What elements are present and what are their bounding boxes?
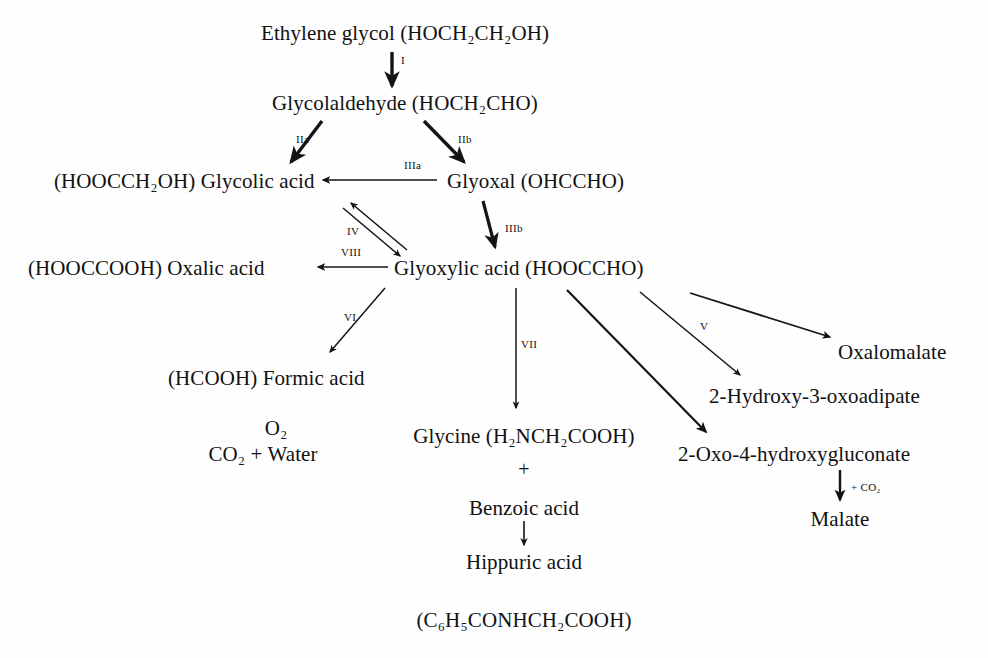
edge-glyoxylic-to-oxalomalate xyxy=(690,293,830,337)
pathway-diagram: Ethylene glycol (HOCH₂CH₂OH)Glycolaldehy… xyxy=(0,0,988,658)
reaction-label-step-co2: + CO₂ xyxy=(851,481,881,493)
node-oxygen: O₂ xyxy=(265,417,288,439)
node-glycine: Glycine (H₂NCH₂COOH) xyxy=(413,425,634,447)
reaction-label-step-V: V xyxy=(700,320,708,332)
edge-glyoxylic-to-formic xyxy=(330,288,385,352)
plus-sign-glycine-benzoic-plus: + xyxy=(518,458,529,481)
edge-glyoxal-to-glyoxylic xyxy=(483,201,495,247)
edge-glyoxylic-to-gluconate xyxy=(567,290,706,432)
reaction-label-step-IIIb: IIIb xyxy=(505,222,523,234)
node-oxalomalate: Oxalomalate xyxy=(838,341,946,363)
node-hippuric-formula: (C₆H₅CONHCH₂COOH) xyxy=(416,609,631,631)
node-benzoic-acid: Benzoic acid xyxy=(469,497,579,519)
reaction-label-step-VIII: VIII xyxy=(341,246,361,258)
edge-glyoxylic-to-glycolic xyxy=(351,203,407,250)
node-glycolic-acid: (HOOCCH₂OH) Glycolic acid xyxy=(54,170,315,192)
node-hippuric-acid: Hippuric acid xyxy=(466,551,582,573)
node-hydroxy-oxoadipate: 2-Hydroxy-3-oxoadipate xyxy=(709,385,920,407)
reaction-label-step-IV: IV xyxy=(347,225,359,237)
node-glyoxylic-acid: Glyoxylic acid (HOOCCHO) xyxy=(394,257,644,279)
reaction-label-step-VII: VII xyxy=(521,338,537,350)
reaction-label-step-IIIa: IIIa xyxy=(404,159,421,171)
node-oxo-hydroxygluconate: 2-Oxo-4-hydroxygluconate xyxy=(678,443,910,465)
node-formic-acid: (HCOOH) Formic acid xyxy=(168,367,365,389)
node-glycolaldehyde: Glycolaldehyde (HOCH₂CHO) xyxy=(272,92,538,114)
node-oxalic-acid: (HOOCCOOH) Oxalic acid xyxy=(28,257,265,279)
reaction-label-step-IIb: IIb xyxy=(458,133,472,145)
reaction-label-step-I: I xyxy=(401,54,405,66)
reaction-label-step-IIa: IIa xyxy=(296,133,309,145)
reaction-label-step-VI: VI xyxy=(344,311,356,323)
node-glyoxal: Glyoxal (OHCCHO) xyxy=(447,170,624,192)
node-ethylene-glycol: Ethylene glycol (HOCH₂CH₂OH) xyxy=(261,22,549,44)
node-malate: Malate xyxy=(811,508,870,530)
node-co2-water: CO₂ + Water xyxy=(208,443,317,465)
